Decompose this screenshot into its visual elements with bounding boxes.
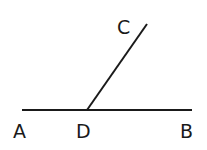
label-C: C [117, 16, 130, 38]
label-B: B [180, 120, 193, 142]
label-A: A [13, 120, 26, 142]
geometry-diagram: C A D B [0, 0, 207, 150]
label-D: D [76, 120, 91, 142]
